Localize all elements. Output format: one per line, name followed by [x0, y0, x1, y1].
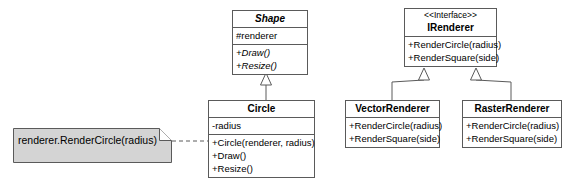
shape-attribute-renderer: #renderer	[236, 29, 304, 42]
shape-title-compartment: Shape	[233, 11, 307, 28]
irenderer-operation-rendersquare: +RenderSquare(side)	[408, 51, 493, 64]
class-box-shape[interactable]: Shape #renderer +Draw() +Resize()	[232, 10, 308, 75]
raster-renderer-operation-rendercircle: +RenderCircle(radius)	[466, 119, 558, 132]
vector-renderer-operations-compartment: +RenderCircle(radius) +RenderSquare(side…	[346, 118, 439, 147]
circle-attribute-radius: -radius	[212, 119, 311, 132]
raster-renderer-title-compartment: RasterRenderer	[463, 101, 561, 118]
uml-class-diagram: Shape #renderer +Draw() +Resize() Circle…	[0, 0, 573, 179]
realization-arrowhead-irenderer-right	[471, 68, 482, 80]
note-box[interactable]: renderer.RenderCircle(radius)	[13, 128, 172, 163]
note-text: renderer.RenderCircle(radius)	[18, 133, 157, 147]
class-box-circle[interactable]: Circle -radius +Circle(renderer, radius)…	[208, 100, 315, 178]
class-box-vector-renderer[interactable]: VectorRenderer +RenderCircle(radius) +Re…	[345, 100, 440, 148]
irenderer-operations-compartment: +RenderCircle(radius) +RenderSquare(side…	[405, 37, 496, 66]
class-box-raster-renderer[interactable]: RasterRenderer +RenderCircle(radius) +Re…	[462, 100, 562, 148]
irenderer-stereotype: <<Interface>>	[408, 10, 493, 21]
class-box-irenderer[interactable]: <<Interface>> IRenderer +RenderCircle(ra…	[404, 8, 497, 67]
raster-renderer-operations-compartment: +RenderCircle(radius) +RenderSquare(side…	[463, 118, 561, 147]
vector-renderer-title-compartment: VectorRenderer	[346, 101, 439, 118]
shape-operations-compartment: +Draw() +Resize()	[233, 45, 307, 74]
raster-renderer-operation-rendersquare: +RenderSquare(side)	[466, 132, 558, 145]
circle-operations-compartment: +Circle(renderer, radius) +Draw() +Resiz…	[209, 135, 314, 177]
circle-attributes-compartment: -radius	[209, 118, 314, 135]
note-fold-path	[160, 129, 172, 141]
circle-title-compartment: Circle	[209, 101, 314, 118]
shape-operation-resize: +Resize()	[236, 59, 304, 72]
circle-operation-draw: +Draw()	[212, 149, 311, 162]
realization-arrowhead-irenderer-left	[419, 68, 430, 80]
circle-operation-resize: +Resize()	[212, 162, 311, 175]
class-name-circle: Circle	[212, 102, 311, 115]
realization-line-vector-irenderer-b	[392, 80, 424, 82]
class-name-shape: Shape	[236, 12, 304, 25]
shape-operation-draw: +Draw()	[236, 46, 304, 59]
class-name-raster-renderer: RasterRenderer	[466, 102, 558, 115]
class-name-vector-renderer: VectorRenderer	[349, 102, 436, 115]
irenderer-operation-rendercircle: +RenderCircle(radius)	[408, 38, 493, 51]
vector-renderer-operation-rendercircle: +RenderCircle(radius)	[349, 119, 436, 132]
circle-operation-constructor: +Circle(renderer, radius)	[212, 136, 311, 149]
vector-renderer-operation-rendersquare: +RenderSquare(side)	[349, 132, 436, 145]
class-name-irenderer: IRenderer	[408, 21, 493, 34]
irenderer-title-compartment: <<Interface>> IRenderer	[405, 9, 496, 37]
realization-line-raster-irenderer-b	[476, 80, 511, 82]
shape-attributes-compartment: #renderer	[233, 28, 307, 45]
